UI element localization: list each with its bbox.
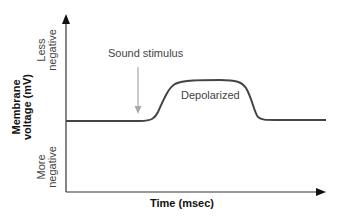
stimulus-label: Sound stimulus — [108, 47, 183, 59]
plateau-label: Depolarized — [181, 89, 240, 101]
x-axis-label: Time (msec) — [150, 197, 214, 209]
y-bottom-label: More negative — [36, 142, 60, 192]
x-axis-arrow-icon — [316, 188, 326, 196]
y-top-line2: negative — [47, 25, 58, 75]
y-axis-label: Membrane voltage (mV) — [11, 72, 35, 142]
stimulus-arrow-icon — [135, 106, 142, 114]
y-top-label: Less negative — [36, 25, 60, 75]
y-bottom-line2: negative — [47, 142, 58, 192]
y-axis-label-line2: voltage (mV) — [22, 72, 33, 142]
y-axis-arrow-icon — [62, 14, 70, 24]
